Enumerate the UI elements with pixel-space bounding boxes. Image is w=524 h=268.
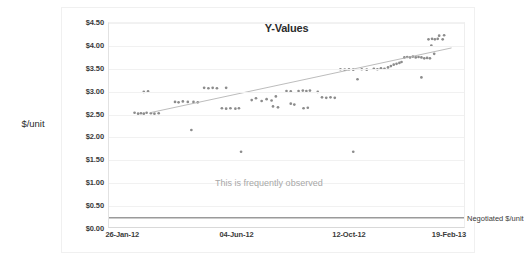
data-point [434,38,437,41]
gridline [109,92,464,93]
data-point [255,97,258,100]
x-axis-tick-label: 26-Jan-12 [105,230,139,239]
y-axis-tick-label: $4.50 [86,18,104,27]
data-point [392,63,395,66]
data-point [427,38,430,41]
data-point [420,76,423,79]
y-axis-tick-label: $1.50 [86,155,104,164]
data-point [177,101,180,104]
data-point [289,102,292,105]
x-axis-tick-label: 19-Feb-13 [432,230,466,239]
data-point [441,38,444,41]
data-point [203,86,206,89]
data-point [400,61,403,64]
y-axis-tick-label: $2.50 [86,109,104,118]
data-point [414,56,417,59]
data-point [234,107,237,110]
scatter-series [133,34,445,153]
x-axis-tick-labels: 26-Jan-1204-Jun-1212-Oct-1219-Feb-13 [108,230,465,244]
trendline [150,48,452,113]
data-point [277,106,280,109]
gridline [109,115,464,116]
y-axis-tick-label: $0.50 [86,201,104,210]
data-point [190,129,193,132]
x-axis-tick-label: 04-Jun-12 [219,230,253,239]
data-point [333,96,336,99]
data-point [238,107,241,110]
data-point [429,57,432,60]
chart-annotation: This is frequently observed [215,178,323,188]
data-point [225,86,228,89]
gridline [109,137,464,138]
data-point [329,96,332,99]
data-point [321,96,324,99]
plot-area [108,22,465,228]
data-point [417,56,420,59]
data-point [395,62,398,65]
y-axis-tick-label: $2.00 [86,132,104,141]
data-point [433,52,436,55]
data-point [211,86,214,89]
data-point [423,57,426,60]
data-point [325,96,328,99]
y-axis-tick-label: $4.00 [86,40,104,49]
gridline [109,206,464,207]
gridline [109,69,464,70]
data-point [356,78,359,81]
data-point [438,34,441,37]
data-point [390,65,393,68]
y-axis-tick-label: $1.00 [86,178,104,187]
gridline [109,160,464,161]
x-axis-tick-label: 12-Oct-12 [332,230,365,239]
data-point [306,106,309,109]
negotiated-series-label: Negotiated $/unit [467,214,524,223]
data-point [431,38,434,41]
data-point [229,107,232,110]
y-axis-tick-label: $3.50 [86,63,104,72]
gridline [109,23,464,24]
data-point [420,56,423,59]
data-point [250,99,253,102]
data-point [293,103,296,106]
data-point [272,105,275,108]
data-point [426,57,429,60]
data-point [275,95,278,98]
data-point [221,107,224,110]
data-point [181,100,184,103]
data-point [186,101,189,104]
data-point [174,101,177,104]
data-point [207,87,210,90]
data-point [443,34,446,37]
data-point [265,98,268,101]
data-point [260,100,263,103]
chart-data-layer [109,23,464,227]
data-point [240,150,243,153]
data-point [216,87,219,90]
y-axis-title: $/unit [8,118,58,129]
data-point [436,38,439,41]
data-point [270,99,273,102]
data-point [302,107,305,110]
y-axis-tick-label: $0.00 [86,224,104,233]
y-axis-tick-labels: $0.00$0.50$1.00$1.50$2.00$2.50$3.00$3.50… [62,22,104,228]
y-axis-tick-label: $3.00 [86,86,104,95]
data-point [352,150,355,153]
data-point [225,107,228,110]
gridline [109,46,464,47]
